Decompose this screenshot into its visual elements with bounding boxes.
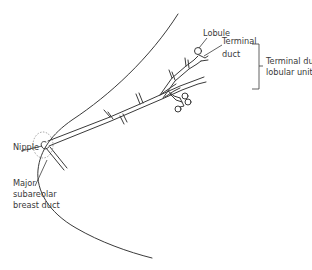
subareolar-duct-branch bbox=[46, 147, 67, 170]
label-tdlu-2: lobular unit bbox=[266, 67, 312, 77]
label-nipple: Nipple bbox=[13, 142, 39, 152]
side-branches bbox=[104, 93, 143, 124]
leader-major-duct bbox=[35, 160, 47, 186]
label-major-duct-3: breast duct bbox=[13, 200, 60, 210]
lobule-top bbox=[195, 48, 209, 62]
label-major-duct-1: Major bbox=[13, 178, 36, 188]
tdlu-bracket bbox=[252, 44, 263, 89]
main-duct bbox=[48, 77, 206, 146]
label-terminal-duct-1: Terminal bbox=[221, 36, 257, 46]
leader-terminal-duct bbox=[204, 45, 222, 56]
label-major-duct-2: subareolar bbox=[13, 189, 57, 199]
label-terminal-duct-2: duct bbox=[222, 49, 241, 59]
breast-contour bbox=[38, 14, 178, 258]
breast-duct-diagram: Lobule Terminal duct Terminal duct lobul… bbox=[0, 0, 312, 270]
label-tdlu-1: Terminal duct bbox=[265, 56, 312, 66]
leader-lobule bbox=[199, 38, 207, 48]
